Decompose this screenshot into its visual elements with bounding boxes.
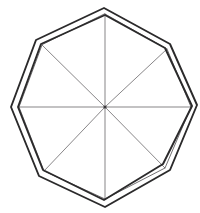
center-point-dot: [103, 105, 106, 108]
figure-background: [0, 0, 200, 213]
geometric-figure-canvas: [0, 0, 200, 213]
octagon-figure-svg: [0, 0, 200, 213]
